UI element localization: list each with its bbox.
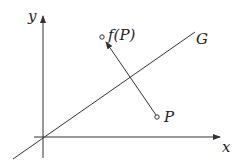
line-g: [13, 32, 195, 159]
reflection-diagram: y x G f(P) P: [0, 0, 239, 167]
diagram-svg: y x G f(P) P: [0, 0, 239, 167]
point-fp: [100, 35, 104, 39]
mapping-segment: [106, 42, 156, 115]
x-axis-label: x: [222, 138, 231, 156]
point-p-label: P: [163, 108, 175, 126]
point-p: [155, 115, 159, 119]
point-fp-label: f(P): [107, 26, 135, 44]
line-g-label: G: [196, 30, 208, 48]
y-axis-label: y: [27, 7, 37, 25]
